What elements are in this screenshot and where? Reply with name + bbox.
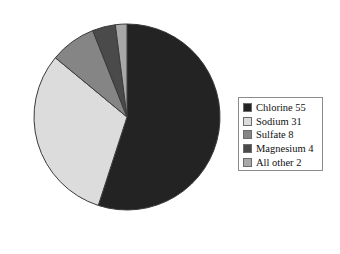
legend-item-chlorine[interactable]: Chlorine 55 — [243, 101, 322, 115]
legend-swatch-magnesium — [243, 144, 252, 153]
chart-legend: Chlorine 55 Sodium 31 Sulfate 8 Magnesiu… — [238, 97, 323, 171]
legend-item-sodium[interactable]: Sodium 31 — [243, 115, 322, 129]
legend-item-sulfate[interactable]: Sulfate 8 — [243, 128, 322, 142]
pie-chart-figure: Chlorine 55 Sodium 31 Sulfate 8 Magnesiu… — [0, 0, 340, 254]
legend-label-magnesium: Magnesium 4 — [256, 143, 313, 154]
legend-swatch-chlorine — [243, 103, 252, 112]
legend-swatch-all-other — [243, 158, 252, 167]
legend-label-sodium: Sodium 31 — [256, 116, 302, 127]
legend-swatch-sulfate — [243, 130, 252, 139]
legend-swatch-sodium — [243, 117, 252, 126]
legend-label-sulfate: Sulfate 8 — [256, 129, 294, 140]
legend-item-magnesium[interactable]: Magnesium 4 — [243, 142, 322, 156]
legend-item-all-other[interactable]: All other 2 — [243, 155, 322, 169]
legend-label-all-other: All other 2 — [256, 157, 302, 168]
pie-slice-group — [34, 24, 220, 210]
legend-label-chlorine: Chlorine 55 — [256, 102, 306, 113]
